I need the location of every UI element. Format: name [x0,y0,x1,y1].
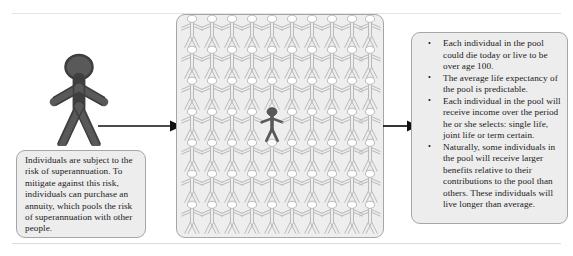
list-item: Each individual in the pool will receive… [418,96,561,142]
crowd-row [181,15,380,47]
crowd-row [181,201,380,233]
pool-outcomes-list: Each individual in the pool could die to… [418,38,561,211]
crowd-row [181,170,380,202]
crowd-figures-grid [177,15,384,238]
list-item: Naturally, some individuals in the pool … [418,142,561,211]
note-individual-risk-text: Individuals are subject to the risk of s… [25,155,138,235]
page-rule-bottom [12,243,561,244]
pool-container [176,14,384,238]
list-item: The average life expectancy of the pool … [418,73,561,96]
crowd-row [181,108,380,141]
note-pool-outcomes: Each individual in the pool could die to… [411,32,568,224]
arrow-individual-to-pool [98,119,182,133]
note-individual-risk: Individuals are subject to the risk of s… [16,150,146,238]
crowd-row [181,46,380,78]
crowd-row [181,77,380,109]
diagram-canvas: Individuals are subject to the risk of s… [0,0,573,256]
highlighted-individual-figure [262,108,283,141]
list-item: Each individual in the pool could die to… [418,38,561,73]
crowd-row [181,139,380,171]
